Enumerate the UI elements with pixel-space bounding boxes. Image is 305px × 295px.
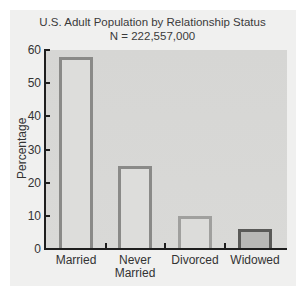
y-tick-30 (44, 149, 50, 151)
y-axis-label: Percentage (15, 119, 29, 179)
y-tick-50 (44, 82, 50, 84)
y-tick-10 (44, 215, 50, 217)
chart-subtitle: N = 222,557,000 (0, 29, 305, 43)
y-tick-label-10: 10 (14, 210, 41, 222)
y-tick-40 (44, 115, 50, 117)
x-tick (164, 243, 166, 249)
bar-married (59, 57, 93, 249)
chart-title-text: U.S. Adult Population by Relationship St… (0, 15, 305, 29)
x-label-widowed: Widowed (220, 254, 290, 267)
bar-never-married (118, 166, 152, 249)
bar-divorced (178, 216, 212, 249)
x-tick (224, 243, 226, 249)
x-tick (105, 243, 107, 249)
chart-title: U.S. Adult Population by Relationship St… (0, 15, 305, 43)
x-axis (44, 248, 287, 250)
y-tick-label-60: 60 (14, 44, 41, 56)
y-tick-label-50: 50 (14, 77, 41, 89)
x-label-never-line2: Married (100, 267, 170, 280)
y-tick-20 (44, 182, 50, 184)
y-tick-60 (44, 49, 50, 51)
y-tick-label-0: 0 (14, 243, 41, 255)
bar-widowed (238, 229, 272, 249)
